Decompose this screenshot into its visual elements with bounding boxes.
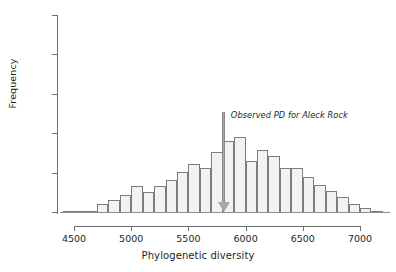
x-axis: 450050005500600065007000 Phylogenetic di… xyxy=(0,0,396,272)
histogram-chart: Frequency 250200150100500 Observed PD fo… xyxy=(0,0,396,272)
x-axis-tick xyxy=(303,226,304,231)
x-axis-tick xyxy=(246,226,247,231)
x-axis-tick xyxy=(131,226,132,231)
x-axis-tick-label: 6500 xyxy=(273,233,333,244)
x-axis-title: Phylogenetic diversity xyxy=(0,250,396,261)
x-axis-tick-label: 6000 xyxy=(216,233,276,244)
x-axis-line xyxy=(74,226,360,227)
x-axis-tick-label: 7000 xyxy=(330,233,390,244)
x-axis-tick-label: 4500 xyxy=(44,233,104,244)
x-axis-tick xyxy=(188,226,189,231)
x-axis-tick-label: 5500 xyxy=(158,233,218,244)
x-axis-tick-label: 5000 xyxy=(101,233,161,244)
x-axis-tick xyxy=(74,226,75,231)
x-axis-tick xyxy=(360,226,361,231)
